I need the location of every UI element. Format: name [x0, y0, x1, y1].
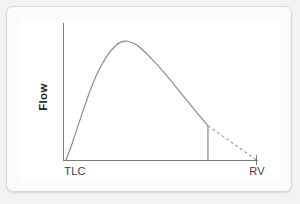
- x-tick-label-tlc: TLC: [64, 165, 85, 177]
- flow-volume-chart: Flow TLC RV: [0, 0, 300, 204]
- x-tick-label-rv: RV: [249, 165, 265, 177]
- screenshot-root: Flow TLC RV: [0, 0, 300, 204]
- flow-volume-curve: [66, 41, 208, 160]
- y-axis-title: Flow: [37, 83, 49, 110]
- extrapolated-dashed-line: [208, 126, 257, 160]
